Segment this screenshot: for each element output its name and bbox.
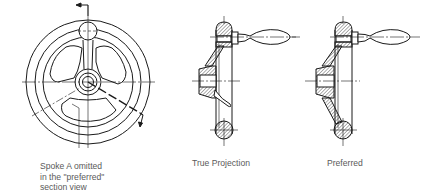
- top-rim-section: [216, 22, 232, 36]
- caption-line: Spoke A omitted: [40, 161, 104, 172]
- caption-spoke-a-omitted: Spoke A omitted in the "preferred" secti…: [40, 161, 104, 193]
- upper-spoke-preferred: [322, 46, 342, 66]
- caption-line: Preferred: [327, 158, 363, 169]
- upper-spoke: [205, 46, 224, 66]
- arrow-down-icon: [139, 122, 143, 127]
- top-rim-section-preferred: [335, 22, 352, 36]
- preferred-view: [316, 22, 410, 139]
- caption-line: section view: [40, 182, 104, 193]
- caption-line: True Projection: [192, 158, 250, 169]
- arrow-left-icon: [76, 3, 81, 7]
- caption-preferred: Preferred: [327, 158, 363, 169]
- window-bottom: [62, 98, 117, 121]
- caption-line: in the "preferred": [40, 172, 104, 183]
- lower-spoke-preferred: [322, 98, 342, 124]
- caption-true-projection: True Projection: [192, 158, 250, 169]
- true-projection-view: [199, 22, 290, 139]
